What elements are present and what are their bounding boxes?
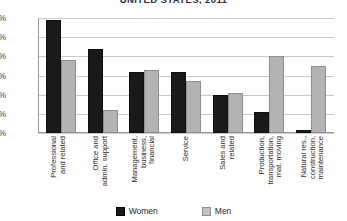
x-axis-category: Professionaland related [38,134,80,206]
bar-men[interactable] [269,56,284,133]
x-axis-category-label: Production,transportation,mat. moving [258,136,284,185]
bar-group [40,18,82,133]
x-axis-category-line: and related [59,136,68,178]
x-axis-category-label: Service [182,136,191,161]
bar-women[interactable] [129,72,144,133]
x-axis-category-label: Sales andrelated [220,136,237,170]
chart-legend: WomenMen [0,206,347,216]
bar-men[interactable] [186,81,201,133]
bar-groups [38,18,334,133]
x-axis-category: Service [165,134,207,206]
bar-chart: UNITED STATES, 2011 0%5%10%15%20%25%30% … [0,0,347,221]
legend-item-men[interactable]: Men [202,206,232,216]
x-axis-labels: Professionaland relatedOffice andadmin. … [38,134,334,206]
bar-women[interactable] [171,72,186,133]
bar-women[interactable] [213,95,228,133]
x-axis-category-label: Natural res.,construction,maintenance [300,136,326,179]
legend-label: Women [129,206,158,216]
x-axis-category-line: Management, [131,136,140,182]
bar-men[interactable] [311,66,326,133]
x-axis-category-line: Service [182,136,191,161]
bar-women[interactable] [254,112,269,133]
x-axis-category: Sales andrelated [207,134,249,206]
legend-swatch-women [116,207,125,216]
y-axis-tick-label: 20% [0,51,6,61]
y-axis-tick-label: 5% [0,109,6,119]
plot-area [38,18,334,133]
bar-men[interactable] [228,93,243,133]
x-axis-category-line: maintenance [317,136,326,179]
x-axis-category-line: Production, [258,136,267,185]
y-axis-tick-label: 25% [0,32,6,42]
bar-group [249,18,291,133]
bar-group [82,18,124,133]
x-axis-category: Management,business,financial [123,134,165,206]
legend-item-women[interactable]: Women [116,206,158,216]
chart-title: UNITED STATES, 2011 [0,0,347,4]
legend-label: Men [215,206,232,216]
y-axis-tick-label: 0% [0,128,6,138]
x-axis-category: Production,transportation,mat. moving [249,134,291,206]
bar-men[interactable] [103,110,118,133]
x-axis-category-line: mat. moving [275,136,284,185]
bar-group [207,18,249,133]
y-axis-tick-label: 30% [0,13,6,23]
bar-group [290,18,332,133]
y-axis-tick-label: 15% [0,71,6,81]
x-axis-category-label: Office andadmin. support [93,136,110,186]
x-axis-category-label: Management,business,financial [131,136,157,182]
x-axis-category: Office andadmin. support [80,134,122,206]
bar-group [123,18,165,133]
bar-women[interactable] [88,49,103,133]
x-axis-category-line: admin. support [101,136,110,186]
bar-women[interactable] [46,20,61,133]
bar-men[interactable] [61,60,76,133]
y-axis-tick-label: 10% [0,90,6,100]
x-axis-category-label: Professionaland related [51,136,68,178]
x-axis-category: Natural res.,construction,maintenance [292,134,334,206]
bar-group [165,18,207,133]
bar-women[interactable] [296,130,311,133]
bar-men[interactable] [144,70,159,133]
x-axis-category-line: financial [148,136,157,182]
x-axis-category-line: related [228,136,237,170]
legend-swatch-men [202,207,211,216]
